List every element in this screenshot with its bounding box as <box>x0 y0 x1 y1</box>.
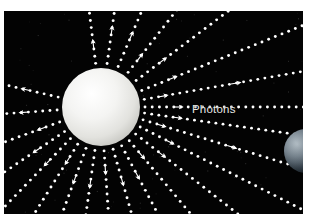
photon-dot <box>216 165 219 168</box>
star-speck <box>295 24 296 25</box>
photon-dot <box>127 157 130 160</box>
star-speck <box>176 19 177 20</box>
photon-dot <box>90 171 93 174</box>
photon-dot <box>207 87 210 90</box>
star-speck <box>300 109 301 110</box>
photon-dot <box>108 48 111 51</box>
star-speck <box>181 21 182 22</box>
photon-dot <box>92 156 95 159</box>
photon-dot <box>80 160 83 163</box>
photon-dot <box>61 167 64 170</box>
photon-dot <box>235 175 238 178</box>
photon-dot <box>158 106 161 109</box>
photon-dot <box>220 57 223 60</box>
star-speck <box>47 104 48 105</box>
photon-dot <box>114 155 117 158</box>
star-speck <box>69 20 70 21</box>
photon-dot <box>180 73 183 76</box>
photon-dot <box>151 106 154 109</box>
photon-dot <box>183 205 186 208</box>
photon-dot <box>160 178 163 181</box>
photon-dot <box>180 168 183 171</box>
photon-dot <box>222 168 225 171</box>
photon-dot <box>279 161 282 164</box>
photon-dot <box>72 149 75 152</box>
photon-dot <box>280 106 283 109</box>
photon-dot <box>219 199 222 202</box>
photon-dot <box>175 49 178 52</box>
photon-dot <box>165 115 168 118</box>
photon-dot <box>89 19 92 22</box>
photon-dot <box>94 62 97 65</box>
photon-dot <box>231 208 234 211</box>
star-speck <box>223 40 224 41</box>
photon-dot <box>198 31 201 34</box>
photon-dot <box>36 91 39 94</box>
photon-dot <box>200 65 203 68</box>
photon-dot <box>147 86 150 89</box>
photon-dot <box>248 181 251 184</box>
photon-dot <box>243 126 246 129</box>
photon-dot <box>140 75 143 78</box>
photon-dot <box>288 106 291 109</box>
photon-dot <box>210 139 213 142</box>
photon-dot <box>214 85 217 88</box>
star-speck <box>168 146 169 147</box>
photon-dot <box>202 186 205 189</box>
photon-dot <box>234 51 237 54</box>
star-speck <box>64 173 65 174</box>
photon-dot <box>65 201 68 204</box>
photon-dot <box>228 83 231 86</box>
photon-dot <box>252 106 255 109</box>
photon-dot <box>167 20 170 23</box>
star-speck <box>147 63 148 64</box>
photon-dot <box>281 32 284 35</box>
photon-dot <box>257 128 260 131</box>
photon-dot <box>293 204 296 207</box>
photon-dot <box>145 129 148 132</box>
photon-dot <box>279 131 282 134</box>
star-speck <box>140 203 141 204</box>
star-speck <box>140 208 141 209</box>
photon-dot <box>50 94 53 97</box>
star-speck <box>156 193 157 194</box>
photon-dot <box>191 177 194 180</box>
star-speck <box>194 14 195 15</box>
photon-dot <box>171 14 174 17</box>
photon-dot <box>142 118 145 121</box>
photon-dot <box>214 59 217 62</box>
photon-dot <box>280 197 283 200</box>
photon-dot <box>266 106 269 109</box>
photon-dot <box>50 186 53 189</box>
photon-dot <box>224 144 227 147</box>
star-speck <box>26 105 27 106</box>
photon-dot <box>154 84 157 87</box>
star-speck <box>55 200 56 201</box>
photon-dot <box>113 12 116 15</box>
photon-dot <box>193 119 196 122</box>
photon-dot <box>285 73 288 76</box>
photon-dot <box>56 109 59 112</box>
photon-dot <box>201 106 204 109</box>
photon-dot <box>229 171 232 174</box>
photon-dot <box>51 123 54 126</box>
photon-dot <box>117 65 120 68</box>
photon-dot <box>203 158 206 161</box>
photon-dot <box>151 146 154 149</box>
photon-dot <box>59 148 62 151</box>
photon-dot <box>171 93 174 96</box>
star-speck <box>174 170 175 171</box>
star-speck <box>298 18 299 19</box>
photon-dot <box>127 71 130 74</box>
photon-dot <box>238 148 241 151</box>
star-speck <box>29 65 30 66</box>
star-speck <box>288 92 289 93</box>
photon-dot <box>93 149 96 152</box>
star-speck <box>108 152 109 153</box>
photon-dot <box>106 193 109 196</box>
photon-dot <box>140 183 143 186</box>
photon-dot <box>186 40 189 43</box>
star-speck <box>212 61 213 62</box>
photon-dot <box>287 30 290 33</box>
star-speck <box>78 171 79 172</box>
